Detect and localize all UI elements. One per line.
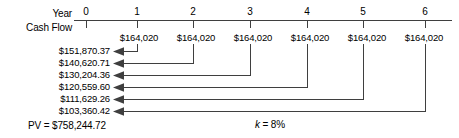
discount-connector-2: [122, 44, 194, 64]
arrowhead-icon-5: [113, 95, 124, 104]
discount-connector-1: [122, 44, 138, 52]
arrowhead-icon-4: [113, 83, 124, 92]
arrowhead-icon-3: [113, 71, 124, 80]
discount-connector-4: [122, 44, 308, 88]
arrowhead-icon-2: [113, 59, 124, 68]
discount-connector-3: [122, 44, 251, 76]
timeline-graphics: [0, 0, 459, 138]
arrowhead-icon-1: [113, 47, 124, 56]
arrowhead-icon-6: [113, 107, 124, 116]
discount-connector-5: [122, 44, 364, 100]
discount-connector-6: [122, 44, 426, 112]
cash-flow-timeline-diagram: Year Cash Flow 0 1 2 3 4 5 6 $164,020 $1…: [0, 0, 459, 138]
